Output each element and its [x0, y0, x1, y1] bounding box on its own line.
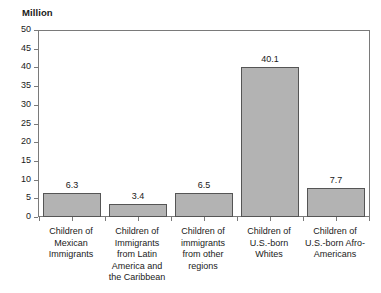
y-axis-tick-mark [34, 49, 38, 50]
y-axis-tick-mark [34, 30, 38, 31]
bar[interactable] [109, 204, 167, 217]
y-axis-tick-label: 25 [21, 118, 31, 128]
y-axis-tick-mark [34, 198, 38, 199]
x-axis-labels: Children ofMexicanImmigrantsChildren ofI… [38, 226, 370, 286]
y-axis-tick-mark [34, 67, 38, 68]
x-axis-category-label-line: Immigrants [38, 249, 104, 261]
y-axis-tick-label: 10 [21, 174, 31, 184]
bar-value-label: 6.5 [171, 180, 237, 190]
x-axis-tick-mark [204, 217, 205, 221]
x-axis-tick-mark [138, 217, 139, 221]
y-axis-tick-mark [34, 180, 38, 181]
x-axis-tick-mark [336, 217, 337, 221]
y-axis-tick-label: 0 [26, 211, 31, 221]
bar-series: 6.33.46.540.17.7 [39, 31, 369, 217]
x-axis-category-label: Children ofU.S.-born Afro-Americans [302, 226, 368, 261]
x-axis-category-label-line: from other [170, 249, 236, 261]
x-axis-tick-mark [171, 217, 172, 221]
bar-value-label: 40.1 [237, 54, 303, 64]
x-axis-category-label-line: regions [170, 261, 236, 273]
y-axis-tick-mark [34, 161, 38, 162]
x-axis-category-label-line: from Latin [104, 249, 170, 261]
bar-value-label: 3.4 [105, 191, 171, 201]
bar-slot: 6.5 [171, 31, 237, 217]
y-axis-tick-label: 20 [21, 136, 31, 146]
bar[interactable] [307, 188, 365, 217]
x-axis-category-label-line: Immigrants [104, 238, 170, 250]
bar-slot: 40.1 [237, 31, 303, 217]
x-axis-category-label-line: America and [104, 261, 170, 273]
y-axis-tick-mark [34, 142, 38, 143]
bar-slot: 7.7 [303, 31, 369, 217]
x-axis-category-label-line: U.S.-born [236, 238, 302, 250]
x-axis-category-label-line: Children of [104, 226, 170, 238]
x-axis-tick-mark [270, 217, 271, 221]
x-axis-tick-mark [369, 217, 370, 221]
x-axis-category-label-line: Americans [302, 249, 368, 261]
x-axis-category-label-line: Children of [38, 226, 104, 238]
y-axis-tick-mark [34, 217, 38, 218]
x-axis-category-label-line: Children of [236, 226, 302, 238]
bar-value-label: 7.7 [303, 175, 369, 185]
x-axis-category-label-line: Mexican [38, 238, 104, 250]
y-axis-tick-label: 45 [21, 43, 31, 53]
y-axis-tick-mark [34, 124, 38, 125]
bar[interactable] [43, 193, 101, 217]
bar[interactable] [241, 67, 299, 217]
x-axis-category-label: Children ofMexicanImmigrants [38, 226, 104, 261]
y-axis-tick-label: 5 [26, 192, 31, 202]
y-axis-tick-label: 50 [21, 24, 31, 34]
x-axis-category-label-line: U.S.-born Afro- [302, 238, 368, 250]
x-axis-category-label-line: Children of [302, 226, 368, 238]
bar[interactable] [175, 193, 233, 217]
x-axis-tick-mark [237, 217, 238, 221]
bar-slot: 3.4 [105, 31, 171, 217]
x-axis-category-label-line: Whites [236, 249, 302, 261]
x-axis-category-label-line: immigrants [170, 238, 236, 250]
x-axis-tick-mark [303, 217, 304, 221]
y-axis-tick-label: 35 [21, 80, 31, 90]
y-axis-tick-label: 30 [21, 99, 31, 109]
bar-value-label: 6.3 [39, 180, 105, 190]
y-axis-tick-mark [34, 105, 38, 106]
x-axis-category-label: Children ofImmigrantsfrom LatinAmerica a… [104, 226, 170, 284]
y-axis-tick-label: 15 [21, 155, 31, 165]
y-axis-tick-mark [34, 86, 38, 87]
y-axis-unit-title: Million [22, 7, 53, 18]
bar-chart: Million 50454035302520151050 6.33.46.540… [0, 0, 381, 293]
x-axis-category-label-line: the Caribbean [104, 272, 170, 284]
x-axis-tick-mark [39, 217, 40, 221]
x-axis-category-label-line: Children of [170, 226, 236, 238]
x-axis-tick-mark [105, 217, 106, 221]
x-axis-category-label: Children ofimmigrantsfrom otherregions [170, 226, 236, 272]
x-axis-category-label: Children ofU.S.-bornWhites [236, 226, 302, 261]
x-axis-tick-mark [72, 217, 73, 221]
y-axis-tick-label: 40 [21, 61, 31, 71]
bar-slot: 6.3 [39, 31, 105, 217]
